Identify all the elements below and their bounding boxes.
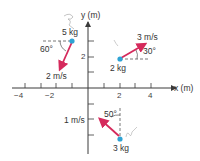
speed-label-3kg: 1 m/s: [64, 116, 85, 125]
x-tick-label-4: 4: [148, 92, 152, 100]
velocity-arrow-2kg: [121, 44, 145, 58]
mass-label-3kg: 3 kg: [113, 144, 129, 153]
velocity-arrow-5kg: [60, 42, 72, 69]
mass-dot-3kg: [117, 136, 122, 141]
angle-label-2kg: 30°: [143, 47, 156, 56]
y-tick-label-2: 2: [81, 53, 85, 61]
velocity-arrow-3kg: [100, 119, 119, 136]
speed-label-5kg: 2 m/s: [46, 72, 67, 81]
speed-label-2kg: 3 m/s: [137, 33, 158, 42]
x-tick-label-neg4: −4: [14, 92, 23, 100]
momentum-diagram: [0, 0, 200, 161]
y-axis-label: y (m): [81, 11, 100, 20]
mass-label-5kg: 5 kg: [62, 28, 78, 37]
angle-label-5kg: 60°: [40, 45, 53, 54]
x-tick-label-neg2: −2: [45, 92, 54, 100]
x-tick-label-2: 2: [117, 92, 121, 100]
x-axis-label: x (m): [174, 84, 193, 93]
mass-dot-5kg: [69, 38, 74, 43]
x-axis: [12, 83, 176, 88]
mass-label-2kg: 2 kg: [110, 64, 126, 73]
angle-label-3kg: 50°: [104, 110, 117, 119]
mass-5kg: [43, 14, 75, 69]
mass-dot-2kg: [117, 56, 122, 61]
